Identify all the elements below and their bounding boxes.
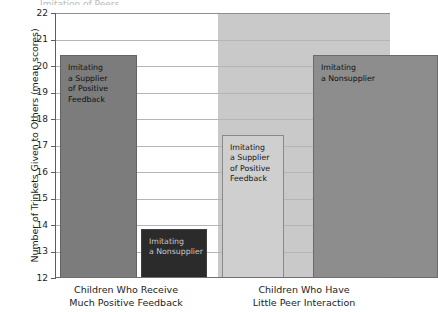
y-axis-tick-label: 18 <box>28 115 48 124</box>
y-axis-tick-label: 14 <box>28 221 48 230</box>
bar: Imitating a Supplier of Positive Feedbac… <box>222 135 284 278</box>
bar-label: Imitating a Supplier of Positive Feedbac… <box>68 63 108 105</box>
y-axis-tick-label: 19 <box>28 88 48 97</box>
cropped-chart-title: Imitation of Peers <box>40 0 240 5</box>
y-axis-tick-label: 16 <box>28 168 48 177</box>
plot-area: Imitating a Supplier of Positive Feedbac… <box>56 13 390 278</box>
bar: Imitating a Supplier of Positive Feedbac… <box>60 55 137 278</box>
bar-label: Imitating a Nonsupplier <box>321 63 375 84</box>
plot-bottom-border <box>56 277 390 278</box>
gridline <box>56 40 390 41</box>
y-axis-tick-label: 21 <box>28 35 48 44</box>
y-axis-tick-label: 22 <box>28 9 48 18</box>
bar-label: Imitating a Nonsupplier <box>149 237 203 258</box>
y-axis-tick-label: 17 <box>28 141 48 150</box>
x-axis-group-label: Children Who Have Little Peer Interactio… <box>214 284 394 309</box>
bar-label: Imitating a Supplier of Positive Feedbac… <box>230 143 270 185</box>
x-axis-group-label: Children Who Receive Much Positive Feedb… <box>36 284 216 309</box>
bar: Imitating a Nonsupplier <box>313 55 438 278</box>
plot-top-border <box>56 13 390 14</box>
y-axis-tick-label: 12 <box>28 274 48 283</box>
y-axis-tick-label: 13 <box>28 247 48 256</box>
y-axis-tick-label: 15 <box>28 194 48 203</box>
y-axis-tick-label: 20 <box>28 62 48 71</box>
bar: Imitating a Nonsupplier <box>141 229 207 278</box>
